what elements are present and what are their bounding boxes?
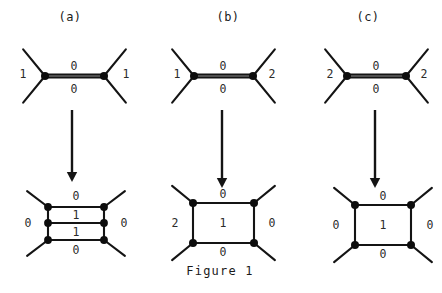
square-leg-lower-right (254, 243, 275, 260)
panel-a-top-top-edge-label: 0 (71, 59, 78, 73)
panel-a-bottom-top-label: 0 (73, 189, 80, 203)
square-vertex-bottom-left (351, 241, 359, 249)
panel-b-top-top-edge-label: 0 (220, 59, 227, 73)
square-leg-lower-right (411, 245, 432, 262)
square-vertex-bottom-right (407, 241, 415, 249)
panel-b-transform-arrow (217, 110, 227, 188)
ladder-vertex-left-1 (44, 203, 52, 211)
panel-b-top-right-leg-label: 2 (269, 67, 276, 81)
ladder-vertex-left-3 (44, 236, 52, 244)
panel-a-top-left-leg-label: 1 (20, 67, 27, 81)
top-graph-vertex-right (402, 72, 410, 80)
panel-b-bottom-top-label: 0 (220, 187, 227, 201)
panel-c-bottom-top-label: 0 (380, 189, 387, 203)
square-vertex-bottom-right (250, 239, 258, 247)
top-graph-vertex-right (100, 72, 108, 80)
square-vertex-top-left (189, 199, 197, 207)
panel-a-transform-arrow (67, 110, 77, 182)
ladder-leg-lower-left (27, 240, 48, 256)
square-leg-lower-left (172, 243, 193, 260)
top-graph-vertex-right (249, 72, 257, 80)
panel-c-bottom-center-label: 1 (380, 218, 387, 232)
ladder-leg-lower-right (104, 240, 125, 256)
panel-a-bottom-upper-cell-label: 1 (73, 208, 80, 222)
square-leg-upper-left (334, 188, 355, 205)
square-leg-upper-right (254, 186, 275, 203)
panel-b-bottom-center-label: 1 (220, 216, 227, 230)
square-vertex-bottom-left (189, 239, 197, 247)
panel-a-top-bottom-edge-label: 0 (71, 82, 78, 96)
ladder-vertex-right-1 (100, 203, 108, 211)
panel-c-transform-arrow (370, 110, 380, 188)
panel-a-bottom-bottom-label: 0 (73, 243, 80, 257)
square-leg-lower-left (334, 245, 355, 262)
top-graph-vertex-left (190, 72, 198, 80)
ladder-leg-upper-right (104, 191, 125, 207)
ladder-vertex-left-2 (44, 219, 52, 227)
panel-a-bottom-lower-cell-label: 1 (73, 225, 80, 239)
square-leg-upper-left (172, 186, 193, 203)
arrow-head (370, 178, 380, 188)
panel-label-a: (a) (58, 10, 81, 24)
square-vertex-top-right (250, 199, 258, 207)
top-graph-vertex-left (343, 72, 351, 80)
ladder-vertex-right-2 (100, 219, 108, 227)
panel-c-bottom-left-label: 0 (333, 218, 340, 232)
square-leg-upper-right (411, 188, 432, 205)
panel-a-top-right-leg-label: 1 (123, 67, 130, 81)
panel-b-bottom-bottom-label: 0 (220, 245, 227, 259)
figure-caption: Figure 1 (186, 264, 253, 278)
ladder-vertex-right-3 (100, 236, 108, 244)
figure-1-container: (a)1001011000(b)100201020(c)200201000 Fi… (0, 0, 442, 293)
panel-b-top-left-leg-label: 1 (174, 67, 181, 81)
arrow-head (67, 172, 77, 182)
panel-c-top-top-edge-label: 0 (373, 59, 380, 73)
panel-b-top-bottom-edge-label: 0 (220, 82, 227, 96)
panel-c-top-right-leg-label: 2 (421, 67, 428, 81)
panel-c-bottom-bottom-label: 0 (380, 247, 387, 261)
square-vertex-top-left (351, 201, 359, 209)
panel-b-bottom-right-label: 0 (269, 216, 276, 230)
square-vertex-top-right (407, 201, 415, 209)
top-graph-vertex-left (41, 72, 49, 80)
panel-c-top-left-leg-label: 2 (327, 67, 334, 81)
panel-c-top-bottom-edge-label: 0 (373, 82, 380, 96)
panel-label-b: (b) (216, 10, 239, 24)
panel-label-c: (c) (356, 10, 379, 24)
panel-b-bottom-left-label: 2 (172, 216, 179, 230)
panel-c-bottom-right-label: 0 (427, 218, 434, 232)
panel-a-bottom-right-label: 0 (121, 216, 128, 230)
panel-a-bottom-left-label: 0 (25, 216, 32, 230)
ladder-leg-upper-left (27, 191, 48, 207)
